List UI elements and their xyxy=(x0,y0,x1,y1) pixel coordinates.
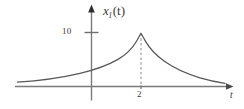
signal-curve xyxy=(18,33,226,83)
signal-name-argument: (t) xyxy=(113,3,125,18)
y-axis-tick-label-10: 10 xyxy=(62,27,72,36)
t-axis-group xyxy=(15,83,234,90)
t-axis-label: t xyxy=(230,91,233,101)
figure-canvas: 10 2 t x1(t) xyxy=(0,0,244,109)
signal-name-label: x1(t) xyxy=(103,4,125,17)
signal-name-subscript: 1 xyxy=(108,11,112,20)
y-axis-arrowhead xyxy=(88,5,95,13)
t-axis-arrowhead xyxy=(226,83,234,90)
x-axis-tick-label-2: 2 xyxy=(137,90,142,99)
